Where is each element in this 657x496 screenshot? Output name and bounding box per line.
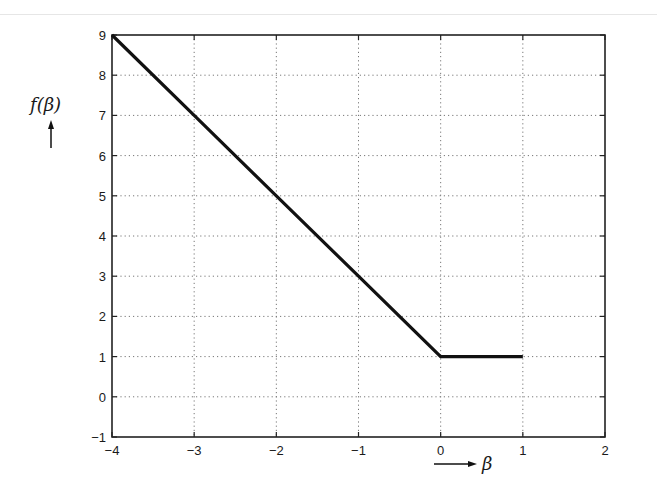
y-axis-label: f(β) [28,94,61,115]
x-tick-label: −4 [105,443,120,458]
y-tick-labels: −10123456789 [91,28,106,445]
x-axis-label: β [481,453,492,474]
right-arrow-icon [434,461,477,467]
y-tick-label: 3 [99,269,106,284]
axes-frame [112,35,605,437]
x-tick-label: 0 [437,443,444,458]
y-tick-label: 2 [99,309,106,324]
y-tick-label: 4 [99,229,106,244]
x-tick-labels: −4−3−2−1012 [105,443,609,458]
y-tick-label: 0 [99,390,106,405]
x-tick-label: −2 [269,443,284,458]
tick-marks [112,35,605,437]
y-tick-label: 6 [99,149,106,164]
grid-lines [112,35,605,437]
y-tick-label: 1 [99,350,106,365]
line-chart: −4−3−2−1012 −10123456789 f(β) β [0,0,657,496]
y-tick-label: −1 [91,430,106,445]
y-tick-label: 8 [99,68,106,83]
x-tick-label: −3 [187,443,202,458]
x-tick-label: 2 [601,443,608,458]
y-tick-label: 9 [99,28,106,43]
y-tick-label: 5 [99,189,106,204]
y-tick-label: 7 [99,108,106,123]
x-tick-label: 1 [519,443,526,458]
up-arrow-icon [48,120,54,148]
x-tick-label: −1 [351,443,366,458]
